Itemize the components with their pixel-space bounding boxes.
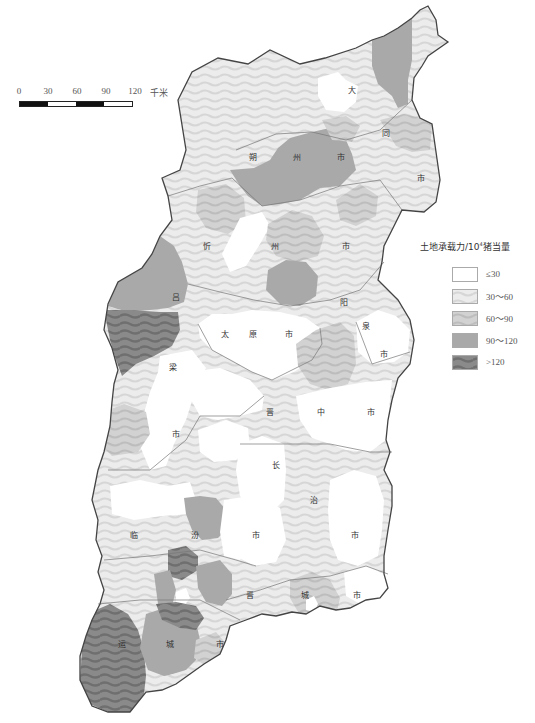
label-shuozhou-3: 市 xyxy=(337,152,345,162)
label-shuozhou-1: 朔 xyxy=(249,152,257,162)
legend-title: 土地承载力/104猪当量 xyxy=(420,240,535,253)
scale-seg-2 xyxy=(48,102,76,106)
label-xinzhou-2: 州 xyxy=(271,242,279,251)
scale-tick-120: 120 xyxy=(128,86,142,96)
label-jinzhong-2: 中 xyxy=(317,407,325,417)
label-linfen-1: 临 xyxy=(130,530,138,540)
label-linfen-2: 汾 xyxy=(191,530,199,540)
region-linfen-white xyxy=(110,480,196,520)
label-jinzhong-3: 市 xyxy=(367,407,375,417)
scale-seg-4 xyxy=(104,102,132,106)
label-xinzhou-3: 市 xyxy=(342,241,350,251)
scale-bar: 0 30 60 90 120 千米 xyxy=(17,86,177,116)
legend-item-gt120: >120 xyxy=(452,351,535,373)
legend-label-gt120: >120 xyxy=(486,357,505,367)
legend-item-30-60: 30～60 xyxy=(452,285,535,307)
label-jinzhong-1: 晋 xyxy=(266,408,274,417)
legend-label-60-90: 60～90 xyxy=(486,312,513,325)
label-shuozhou-2: 州 xyxy=(293,153,301,162)
scale-unit: 千米 xyxy=(150,86,168,99)
label-taiyuan-1: 太 xyxy=(221,329,229,339)
label-yangquan-2: 泉 xyxy=(362,321,370,331)
legend-swatch-90-120 xyxy=(452,333,478,348)
label-changzhi-1: 长 xyxy=(272,460,280,470)
legend-label-90-120: 90～120 xyxy=(486,334,518,347)
scale-tick-30: 30 xyxy=(44,86,53,96)
legend-title-prefix: 土地承载力/10 xyxy=(420,242,479,252)
legend-swatch-60-90 xyxy=(452,311,478,326)
label-lvliang-1: 吕 xyxy=(172,293,180,302)
legend-item-le30: ≤30 xyxy=(452,263,535,285)
scale-tick-90: 90 xyxy=(102,86,111,96)
region-changzhi-east-white xyxy=(328,470,384,566)
label-jincheng-2: 城 xyxy=(301,591,309,600)
label-linfen-3: 市 xyxy=(252,530,260,540)
legend-item-90-120: 90～120 xyxy=(452,329,535,351)
label-datong-3: 市 xyxy=(417,173,425,183)
label-yuncheng-1: 运 xyxy=(118,640,126,649)
scale-tick-60: 60 xyxy=(73,86,82,96)
label-lvliang-3: 市 xyxy=(172,429,180,439)
label-changzhi-3: 市 xyxy=(351,530,359,540)
label-jincheng-1: 晋 xyxy=(246,591,254,600)
scale-bar-segments xyxy=(19,101,133,107)
label-datong-1: 大 xyxy=(348,85,356,95)
label-datong-2: 同 xyxy=(382,129,390,138)
legend-title-suffix: 猪当量 xyxy=(483,242,510,252)
legend-swatch-gt120 xyxy=(452,355,478,370)
scale-seg-1 xyxy=(20,102,48,106)
scale-tick-0: 0 xyxy=(17,86,22,96)
scale-seg-3 xyxy=(76,102,104,106)
label-xinzhou-1: 忻 xyxy=(203,241,211,251)
label-changzhi-2: 治 xyxy=(310,495,318,505)
label-jincheng-3: 市 xyxy=(353,590,361,600)
label-yangquan-3: 市 xyxy=(380,349,388,359)
legend-swatch-30-60 xyxy=(452,289,478,304)
label-yangquan-1: 阳 xyxy=(340,298,348,307)
label-yuncheng-2: 城 xyxy=(166,640,174,649)
legend: 土地承载力/104猪当量 ≤30 30～60 60～90 90～120 >120 xyxy=(420,240,535,373)
label-lvliang-2: 梁 xyxy=(169,363,177,372)
legend-label-30-60: 30～60 xyxy=(486,290,513,303)
label-taiyuan-2: 原 xyxy=(249,330,257,339)
legend-swatch-le30 xyxy=(452,267,478,282)
label-taiyuan-3: 市 xyxy=(285,329,293,339)
legend-item-60-90: 60～90 xyxy=(452,307,535,329)
legend-label-le30: ≤30 xyxy=(486,269,500,279)
label-yuncheng-3: 市 xyxy=(216,639,224,649)
